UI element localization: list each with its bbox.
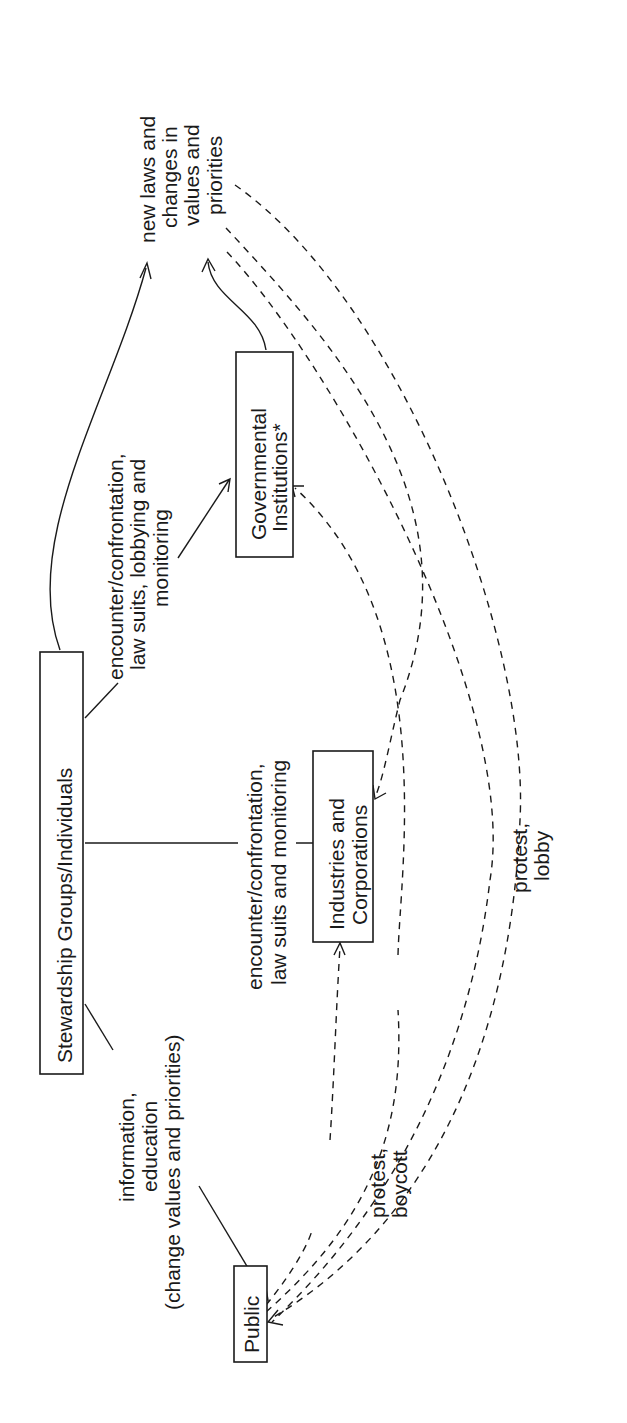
node-public-label: Public	[240, 1296, 263, 1353]
label-protest-lobby-line-2: lobby	[530, 830, 553, 881]
label-public-to-industries: protest, boycott	[366, 1148, 411, 1218]
label-to-industries: encounter/confrontation, law suits and m…	[243, 760, 290, 990]
node-stewardship-label: Stewardship Groups/Individuals	[53, 768, 76, 1063]
node-government-label-2: Institutions*	[268, 423, 291, 532]
outcome-line-3: values and	[180, 124, 203, 226]
outcome-line-4: priorities	[203, 136, 226, 215]
label-to-industries-line-1: encounter/confrontation,	[243, 764, 266, 991]
label-protest-boycott-line-1: protest,	[366, 1148, 389, 1218]
outcome-line-1: new laws and	[136, 116, 159, 243]
node-outcome: new laws and changes in values and prior…	[136, 116, 226, 243]
node-industries: Industries and Corporations	[313, 751, 373, 942]
node-public: Public	[234, 1266, 267, 1362]
label-protest-boycott-line-2: boycott	[388, 1150, 411, 1218]
label-to-public-line-3: (change values and priorities)	[161, 1035, 184, 1310]
edge-public-to-industries	[266, 943, 345, 1305]
label-to-public-line-2: education	[138, 1101, 161, 1192]
diagram-canvas: Stewardship Groups/Individuals Governmen…	[0, 0, 627, 1423]
label-to-government-line-2: law suits, lobbying and	[126, 459, 149, 670]
node-stewardship: Stewardship Groups/Individuals	[40, 652, 83, 1074]
outcome-line-2: changes in	[158, 126, 181, 228]
label-to-government: encounter/confrontation, law suits, lobb…	[104, 454, 172, 681]
label-public-to-government: protest, lobby	[508, 823, 553, 893]
label-to-public-line-1: information,	[115, 1092, 138, 1202]
edge-government-to-outcome	[202, 259, 266, 350]
node-government-label-1: Governmental	[247, 408, 270, 540]
node-government: Governmental Institutions*	[236, 352, 293, 557]
label-to-government-line-1: encounter/confrontation,	[104, 454, 127, 681]
node-industries-label-2: Corporations	[348, 805, 371, 925]
node-industries-label-1: Industries and	[325, 798, 348, 930]
label-protest-lobby-line-1: protest,	[508, 823, 531, 893]
label-to-public: information, education (change values an…	[115, 1035, 184, 1310]
label-to-industries-line-2: law suits and monitoring	[267, 760, 290, 985]
label-to-government-line-3: monitoring	[149, 509, 172, 607]
